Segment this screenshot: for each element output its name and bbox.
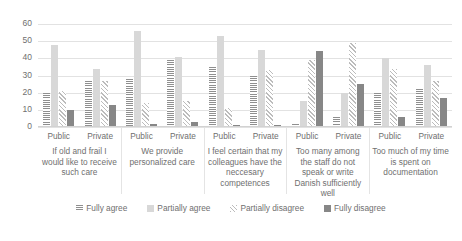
x-axis-line bbox=[38, 126, 452, 127]
bar[interactable] bbox=[432, 81, 439, 127]
bar[interactable] bbox=[382, 58, 389, 127]
bar[interactable] bbox=[101, 81, 108, 127]
bar-cluster-private bbox=[245, 24, 286, 127]
legend-item[interactable]: Partially disagree bbox=[230, 203, 304, 213]
bar[interactable] bbox=[134, 31, 141, 127]
bar-chart: 0102030405060 PublicPrivatePublicPrivate… bbox=[0, 0, 462, 241]
bar-cluster-public bbox=[38, 24, 79, 127]
bar[interactable] bbox=[300, 101, 307, 127]
bar-cluster-public bbox=[121, 24, 162, 127]
category-label: Too many among the staff do not speak or… bbox=[286, 146, 369, 194]
bar-groups bbox=[38, 24, 452, 127]
sector-label-private: Private bbox=[411, 128, 452, 147]
bar-group bbox=[204, 24, 287, 127]
bar[interactable] bbox=[374, 93, 381, 127]
category-label: We provide personalized care bbox=[121, 146, 204, 194]
bar-group bbox=[121, 24, 204, 127]
legend-swatch-icon bbox=[76, 205, 83, 212]
bar-group bbox=[369, 24, 452, 127]
bar[interactable] bbox=[308, 60, 315, 127]
legend-label: Partially disagree bbox=[240, 203, 304, 213]
legend-swatch-icon bbox=[230, 205, 237, 212]
bar[interactable] bbox=[440, 98, 447, 127]
bar-cluster-private bbox=[328, 24, 369, 127]
bar[interactable] bbox=[93, 69, 100, 127]
sector-label-private: Private bbox=[162, 128, 203, 147]
bar[interactable] bbox=[67, 110, 74, 127]
bar[interactable] bbox=[341, 93, 348, 127]
bar[interactable] bbox=[51, 45, 58, 127]
bar[interactable] bbox=[142, 103, 149, 127]
category-separator bbox=[369, 128, 370, 194]
category-separator bbox=[121, 128, 122, 194]
bar[interactable] bbox=[85, 81, 92, 127]
sector-label-private: Private bbox=[79, 128, 120, 147]
bar[interactable] bbox=[43, 93, 50, 127]
y-tick-label-0: 0 bbox=[0, 121, 32, 131]
sector-label-public: Public bbox=[121, 128, 162, 147]
bar[interactable] bbox=[258, 50, 265, 127]
bar-cluster-public bbox=[204, 24, 245, 127]
bar[interactable] bbox=[266, 70, 273, 127]
legend-label: Fully agree bbox=[86, 203, 127, 213]
plot-area bbox=[38, 24, 452, 127]
bar[interactable] bbox=[225, 108, 232, 127]
y-tick-label-60: 60 bbox=[0, 18, 32, 28]
category-label-row: If old and frail I would like to receive… bbox=[38, 146, 452, 194]
bar[interactable] bbox=[416, 89, 423, 127]
legend-swatch-icon bbox=[324, 205, 331, 212]
category-separator bbox=[286, 128, 287, 194]
sector-label-private: Private bbox=[245, 128, 286, 147]
sector-pair: PublicPrivate bbox=[38, 128, 121, 144]
bar-cluster-private bbox=[411, 24, 452, 127]
legend-item[interactable]: Fully agree bbox=[76, 203, 127, 213]
y-tick-label-20: 20 bbox=[0, 87, 32, 97]
bar-group bbox=[38, 24, 121, 127]
sector-pair: PublicPrivate bbox=[286, 128, 369, 144]
sector-label-row: PublicPrivatePublicPrivatePublicPrivateP… bbox=[38, 128, 452, 144]
bar-cluster-private bbox=[162, 24, 203, 127]
bar[interactable] bbox=[390, 69, 397, 127]
bar[interactable] bbox=[424, 65, 431, 127]
bar[interactable] bbox=[109, 105, 116, 127]
sector-pair: PublicPrivate bbox=[369, 128, 452, 144]
chart-legend: Fully agreePartially agreePartially disa… bbox=[0, 203, 462, 213]
bar-cluster-public bbox=[369, 24, 410, 127]
bar[interactable] bbox=[183, 101, 190, 127]
sector-pair: PublicPrivate bbox=[121, 128, 204, 144]
bar-group bbox=[286, 24, 369, 127]
sector-label-public: Public bbox=[369, 128, 410, 147]
legend-item[interactable]: Fully disagree bbox=[324, 203, 386, 213]
bar-cluster-private bbox=[79, 24, 120, 127]
bar[interactable] bbox=[316, 51, 323, 127]
sector-label-public: Public bbox=[286, 128, 327, 147]
category-label: Too much of my time is spent on document… bbox=[369, 146, 452, 194]
bar[interactable] bbox=[209, 67, 216, 127]
sector-pair: PublicPrivate bbox=[204, 128, 287, 144]
bar[interactable] bbox=[217, 36, 224, 127]
bar[interactable] bbox=[59, 91, 66, 127]
y-tick-label-30: 30 bbox=[0, 70, 32, 80]
legend-item[interactable]: Partially agree bbox=[147, 203, 210, 213]
legend-label: Fully disagree bbox=[334, 203, 386, 213]
bar[interactable] bbox=[175, 57, 182, 127]
bar[interactable] bbox=[250, 76, 257, 128]
category-separator bbox=[204, 128, 205, 194]
sector-label-private: Private bbox=[328, 128, 369, 147]
bar[interactable] bbox=[357, 84, 364, 127]
legend-swatch-icon bbox=[147, 205, 154, 212]
y-tick-label-10: 10 bbox=[0, 104, 32, 114]
sector-label-public: Public bbox=[38, 128, 79, 147]
y-tick-label-50: 50 bbox=[0, 35, 32, 45]
bar-cluster-public bbox=[286, 24, 327, 127]
y-tick-label-40: 40 bbox=[0, 52, 32, 62]
bar[interactable] bbox=[167, 60, 174, 127]
bar[interactable] bbox=[126, 79, 133, 127]
category-label: I feel certain that my colleagues have t… bbox=[204, 146, 287, 194]
bar[interactable] bbox=[349, 43, 356, 127]
category-label: If old and frail I would like to receive… bbox=[38, 146, 121, 194]
sector-label-public: Public bbox=[204, 128, 245, 147]
legend-label: Partially agree bbox=[157, 203, 210, 213]
